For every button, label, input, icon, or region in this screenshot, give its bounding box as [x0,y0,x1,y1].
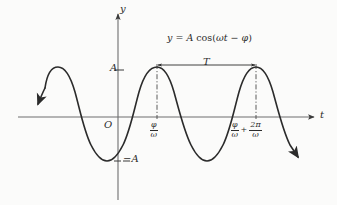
phase-shift-tick-label: φ ω [150,121,158,140]
cosine-wave-figure: y t O A −A T y = A cos(ωt − φ) φ ω φ ω +… [0,0,337,205]
curve-start-arrow [38,88,45,104]
t-axis-label: t [320,110,324,120]
period-fraction: 2π ω [249,121,261,140]
amplitude-label: A [110,63,117,73]
period-label: T [203,57,210,67]
phase-shift-denominator: ω [151,131,158,140]
period-denominator: ω [252,131,259,140]
phase-shift-fraction: φ ω [150,121,158,140]
equation-close: ) [248,32,252,43]
equation-function: cos( [193,32,216,43]
equation-argument: ωt − φ [216,32,248,43]
cosine-curve [45,67,298,161]
equation-equals: = [172,32,186,43]
negative-amplitude-label: −A [123,154,139,164]
phase-shift-denominator-2: ω [232,131,239,140]
phase-shift-fraction-2: φ ω [231,121,239,140]
figure-canvas [0,0,337,205]
y-axis-label: y [120,4,126,14]
equation-label: y = A cos(ωt − φ) [167,33,252,43]
phase-shift-plus-period-tick-label: φ ω + 2π ω [231,121,262,140]
origin-label: O [104,120,112,130]
tick-plus-operator: + [239,121,250,134]
